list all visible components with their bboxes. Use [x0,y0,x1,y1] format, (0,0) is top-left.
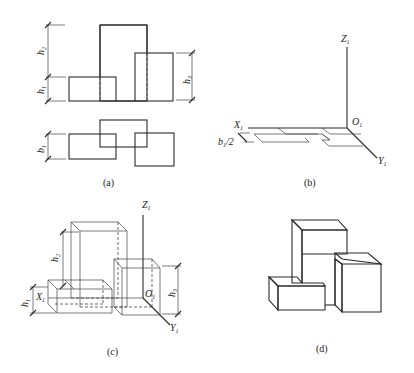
left-block-front [69,77,116,101]
label-h2: h2 [49,254,61,262]
right-block-solid [335,253,381,312]
label-y1: Y1 [170,322,179,334]
panel-b: X1 b1/2 Z1 O1 Y1 (b) [218,33,387,189]
label-h3: h3 [181,76,193,84]
label-z1: Z1 [341,33,350,45]
label-o1: O1 [145,288,155,300]
panel-d: (d) [269,220,381,355]
label-h3: h3 [166,289,178,297]
caption-a: (a) [103,177,114,189]
label-h2: h2 [35,47,47,55]
y1-axis [143,298,170,325]
top-view: b1 [35,120,174,166]
label-y1: Y1 [378,155,387,167]
label-h1: h1 [19,299,31,307]
caption-d: (d) [316,343,328,355]
dimension-h3: h3 [176,50,195,103]
tall-block-front [100,25,147,101]
label-o1: O1 [352,116,362,128]
dimension-b1-half [238,133,254,142]
top-view-outline [254,128,363,146]
label-b1: b1 [35,145,47,153]
dimension-h1-h2: h2 h1 [35,22,66,104]
label-h1: h1 [35,86,47,94]
caption-c: (c) [107,346,118,358]
front-view: h2 h1 h3 [35,22,195,104]
label-x1: X1 [233,119,243,131]
figure-canvas: h2 h1 h3 b1 [0,0,414,373]
panel-a: h2 h1 h3 b1 [35,22,195,189]
dimension-h3: h3 [162,263,181,317]
label-z1: Z1 [142,199,151,211]
caption-b: (b) [304,177,316,189]
tall-block-solid [292,220,347,283]
right-block-top [135,133,174,166]
dimension-b1: b1 [35,131,66,162]
right-block-wireframe [114,259,160,315]
label-b1-half: b1/2 [218,136,234,148]
panel-c: Z1 Y1 X1 O1 [19,199,181,358]
y1-axis [347,128,377,158]
right-block-front [135,53,173,101]
left-block-solid [269,277,325,310]
label-x1: X1 [35,291,45,303]
